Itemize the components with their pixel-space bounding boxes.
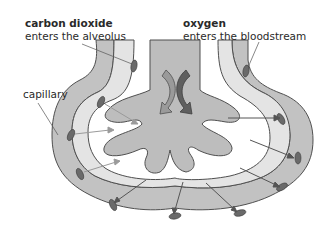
- co2-label-title: carbon dioxide: [25, 17, 126, 30]
- capillary-label: capillary: [23, 88, 68, 101]
- o2-label-subtitle: enters the bloodstream: [183, 30, 306, 43]
- o2-label: oxygen enters the bloodstream: [183, 17, 306, 43]
- co2-label: carbon dioxide enters the alveolus: [25, 17, 126, 43]
- o2-label-title: oxygen: [183, 17, 306, 30]
- co2-label-subtitle: enters the alveolus: [25, 30, 126, 43]
